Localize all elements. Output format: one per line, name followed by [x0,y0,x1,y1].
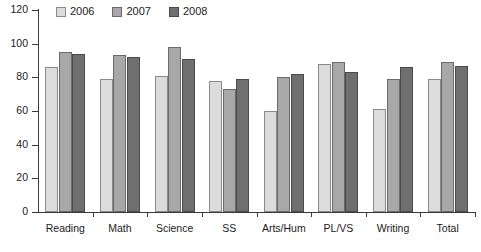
bar-pl-vs-2008 [345,72,358,212]
bar-reading-2007 [59,52,72,212]
y-tick [32,212,39,213]
x-tick [147,212,148,217]
bar-total-2006 [428,79,441,212]
y-tick-label: 40 [0,139,28,149]
x-axis-label-arts-hum: Arts/Hum [257,222,312,234]
x-tick [202,212,203,217]
bar-writing-2006 [373,109,386,212]
y-tick-label: 0 [0,206,28,216]
plot-area [38,10,475,212]
y-tick-label: 60 [0,105,28,115]
bar-chart: 2006 2007 2008 020406080100120 ReadingMa… [0,0,481,252]
bar-science-2008 [182,59,195,212]
bar-math-2007 [113,55,126,212]
bar-writing-2008 [400,67,413,212]
y-tick-label: 80 [0,71,28,81]
bar-science-2007 [168,47,181,212]
bar-arts-hum-2006 [264,111,277,212]
x-axis-label-science: Science [147,222,202,234]
bar-ss-2008 [236,79,249,212]
bar-pl-vs-2007 [332,62,345,212]
x-tick [257,212,258,217]
bar-total-2008 [455,66,468,212]
bar-ss-2007 [223,89,236,212]
bar-reading-2006 [45,67,58,212]
x-tick [420,212,421,217]
y-tick-label: 20 [0,172,28,182]
bar-ss-2006 [209,81,222,212]
x-axis-label-total: Total [420,222,475,234]
bar-science-2006 [155,76,168,212]
bar-writing-2007 [387,79,400,212]
x-axis-label-ss: SS [202,222,257,234]
x-axis-label-math: Math [93,222,148,234]
x-tick [475,212,476,217]
y-tick-label: 120 [0,4,28,14]
x-axis-label-pl-vs: PL/VS [311,222,366,234]
bar-math-2008 [127,57,140,212]
x-axis-label-writing: Writing [366,222,421,234]
x-axis-label-reading: Reading [38,222,93,234]
y-tick-label: 100 [0,38,28,48]
x-tick [366,212,367,217]
bar-pl-vs-2006 [318,64,331,212]
bar-math-2006 [100,79,113,212]
x-tick [93,212,94,217]
bar-reading-2008 [72,54,85,212]
bar-total-2007 [441,62,454,212]
bar-arts-hum-2008 [291,74,304,212]
bar-arts-hum-2007 [277,77,290,212]
x-tick [311,212,312,217]
